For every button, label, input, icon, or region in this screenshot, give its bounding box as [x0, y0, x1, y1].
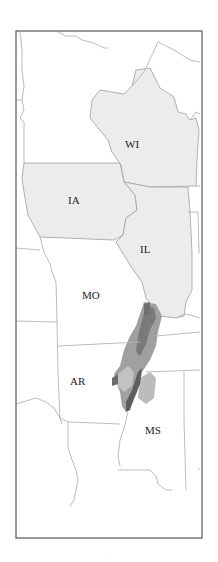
caption: ...	[0, 552, 218, 557]
label-ia: IA	[68, 194, 80, 206]
label-mo: MO	[82, 289, 100, 301]
map: WI IA IL MO AR MS	[0, 0, 218, 562]
label-ms: MS	[145, 424, 161, 436]
density-region	[112, 302, 162, 412]
label-il: IL	[140, 243, 151, 255]
label-wi: WI	[125, 138, 139, 150]
label-ar: AR	[70, 375, 86, 387]
